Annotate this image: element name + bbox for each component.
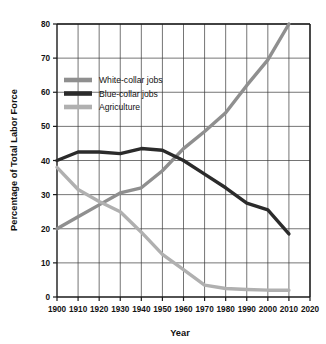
y-tick-label: 0 — [45, 293, 50, 302]
x-tick-label: 2000 — [259, 305, 278, 314]
line-chart: 01020304050607080 1900191019201930194019… — [0, 0, 326, 344]
y-tick-label: 50 — [41, 122, 51, 131]
x-axis-title: Year — [170, 328, 190, 338]
x-tick-label: 1920 — [90, 305, 109, 314]
x-tick-label: 1910 — [69, 305, 88, 314]
x-tick-label: 2020 — [301, 305, 320, 314]
x-tick-label: 1960 — [174, 305, 193, 314]
x-tick-label: 1970 — [195, 305, 214, 314]
y-axis-tick-labels: 01020304050607080 — [41, 20, 51, 302]
x-tick-label: 1900 — [48, 305, 67, 314]
x-tick-label: 1930 — [111, 305, 130, 314]
x-tick-label: 1980 — [217, 305, 236, 314]
y-tick-label: 30 — [41, 191, 51, 200]
y-tick-label: 10 — [41, 259, 51, 268]
x-tick-label: 1950 — [153, 305, 172, 314]
y-tick-label: 60 — [41, 88, 51, 97]
y-tick-label: 20 — [41, 225, 51, 234]
y-tick-label: 80 — [41, 20, 51, 29]
y-tick-label: 40 — [41, 157, 51, 166]
x-tick-label: 1940 — [132, 305, 151, 314]
legend-label-1: White-collar jobs — [99, 75, 163, 85]
legend-label-3: Agriculture — [99, 102, 140, 112]
y-tick-label: 70 — [41, 54, 51, 63]
legend-label-2: Blue-collar jobs — [99, 89, 158, 99]
chart-canvas: 01020304050607080 1900191019201930194019… — [0, 0, 326, 344]
y-axis-title: Percentage of Total Labor Force — [9, 89, 19, 231]
x-tick-label: 1990 — [238, 305, 257, 314]
x-tick-label: 2010 — [280, 305, 299, 314]
